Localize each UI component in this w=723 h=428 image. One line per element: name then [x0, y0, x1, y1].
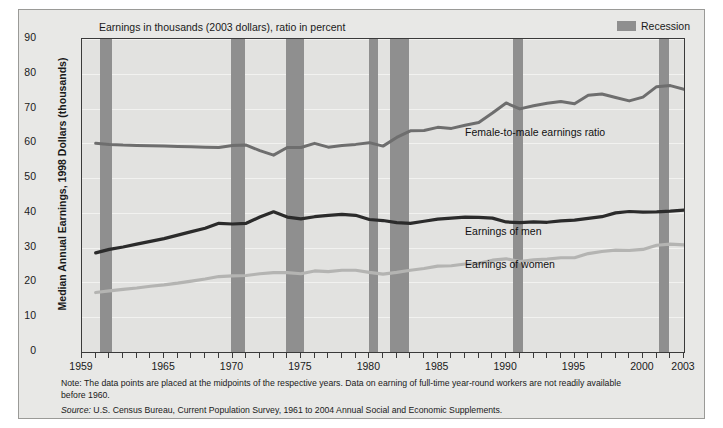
- x-tick: [136, 353, 137, 358]
- x-tick: [149, 353, 150, 358]
- x-tick: [300, 353, 301, 358]
- x-tick: [464, 353, 465, 358]
- y-tick-label: 30: [6, 240, 36, 252]
- x-tick: [423, 353, 424, 358]
- x-tick: [491, 353, 492, 358]
- x-tick: [450, 353, 451, 358]
- x-tick: [409, 353, 410, 358]
- x-tick-label: 1985: [425, 360, 448, 372]
- x-tick: [396, 353, 397, 358]
- x-tick: [669, 353, 670, 358]
- x-tick: [204, 353, 205, 358]
- x-tick: [683, 353, 684, 358]
- chart-title: Earnings in thousands (2003 dollars), ra…: [99, 21, 345, 33]
- x-tick: [574, 353, 575, 358]
- x-tick: [628, 353, 629, 358]
- x-tick-label: 1975: [288, 360, 311, 372]
- x-tick: [546, 353, 547, 358]
- x-tick-label: 1990: [493, 360, 516, 372]
- x-tick: [642, 353, 643, 358]
- y-tick-label: 80: [6, 66, 36, 78]
- x-tick: [273, 353, 274, 358]
- y-tick-label: 50: [6, 170, 36, 182]
- x-tick-label: 1959: [69, 360, 92, 372]
- x-tick: [327, 353, 328, 358]
- y-tick-label: 0: [6, 344, 36, 356]
- x-tick: [437, 353, 438, 358]
- y-tick-label: 10: [6, 309, 36, 321]
- series-annotation: Earnings of women: [465, 258, 555, 270]
- recession-legend-swatch: [617, 21, 636, 31]
- y-tick-label: 20: [6, 274, 36, 286]
- series-annotation: Female-to-male earnings ratio: [465, 126, 605, 138]
- y-tick-label: 40: [6, 205, 36, 217]
- x-tick: [232, 353, 233, 358]
- plot-inner: Female-to-male earnings ratioEarnings of…: [82, 39, 684, 352]
- chart-note: Note: The data points are placed at the …: [61, 378, 626, 401]
- y-axis-title: Median Annual Earnings, 1998 Dollars (th…: [56, 39, 68, 329]
- x-tick: [368, 353, 369, 358]
- x-tick: [122, 353, 123, 358]
- source-text: U.S. Census Bureau, Current Population S…: [91, 405, 502, 415]
- x-tick: [560, 353, 561, 358]
- x-tick: [218, 353, 219, 358]
- x-tick: [259, 353, 260, 358]
- series-annotation: Earnings of men: [465, 225, 541, 237]
- series-container: [82, 39, 684, 352]
- recession-legend-label: Recession: [641, 20, 690, 32]
- x-tick-label: 1980: [357, 360, 380, 372]
- x-tick: [656, 353, 657, 358]
- x-tick: [519, 353, 520, 358]
- x-tick: [615, 353, 616, 358]
- series-line-3: [96, 244, 684, 292]
- x-tick: [245, 353, 246, 358]
- plot-area: Female-to-male earnings ratioEarnings of…: [81, 38, 685, 353]
- legend: Recession: [617, 20, 690, 32]
- x-tick: [382, 353, 383, 358]
- y-tick-label: 60: [6, 135, 36, 147]
- x-tick: [478, 353, 479, 358]
- series-line-2: [96, 210, 684, 253]
- chart-figure: Earnings in thousands (2003 dollars), ra…: [18, 9, 705, 419]
- x-tick: [286, 353, 287, 358]
- x-tick-label: 1965: [151, 360, 174, 372]
- x-tick: [341, 353, 342, 358]
- x-tick: [587, 353, 588, 358]
- x-tick: [601, 353, 602, 358]
- x-tick: [81, 353, 82, 358]
- source-prefix: Source:: [61, 405, 91, 415]
- chart-source: Source: U.S. Census Bureau, Current Popu…: [61, 405, 502, 415]
- y-tick-label: 70: [6, 101, 36, 113]
- x-tick: [177, 353, 178, 358]
- x-tick-label: 1995: [562, 360, 585, 372]
- x-tick: [505, 353, 506, 358]
- x-tick-label: 2003: [671, 360, 694, 372]
- x-tick: [533, 353, 534, 358]
- x-tick: [314, 353, 315, 358]
- y-tick-label: 90: [6, 31, 36, 43]
- x-tick: [163, 353, 164, 358]
- x-tick: [355, 353, 356, 358]
- x-tick-label: 2000: [630, 360, 653, 372]
- x-tick: [95, 353, 96, 358]
- x-tick-label: 1970: [220, 360, 243, 372]
- x-tick: [190, 353, 191, 358]
- series-line-1: [96, 86, 684, 156]
- x-tick: [108, 353, 109, 358]
